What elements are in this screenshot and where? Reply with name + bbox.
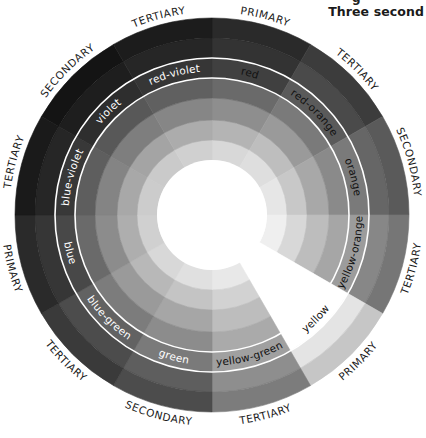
color-wheel: redred-orangeorangeyellow-orangeyellowye… [0, 0, 426, 438]
center-hole [157, 160, 267, 270]
